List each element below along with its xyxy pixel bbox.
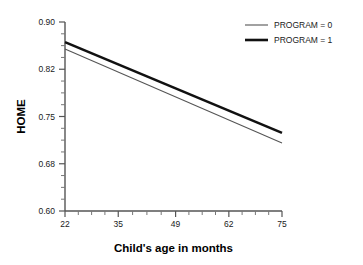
- y-tick-label-2: 0.75: [38, 112, 55, 122]
- x-axis-major-ticks: [65, 211, 282, 217]
- line-chart-canvas: 0.60 0.68 0.75 0.82 0.90 22 35 49 62 75 …: [0, 0, 363, 265]
- y-tick-label-3: 0.82: [38, 64, 55, 74]
- x-tick-label-0: 22: [60, 219, 70, 229]
- data-series-group: [65, 42, 282, 143]
- chart-legend: PROGRAM = 0 PROGRAM = 1: [245, 20, 333, 45]
- y-axis-tick-labels: 0.60 0.68 0.75 0.82 0.90: [38, 17, 55, 216]
- x-tick-label-4: 75: [277, 219, 287, 229]
- legend-label-program-0: PROGRAM = 0: [274, 20, 333, 30]
- chart-figure: 0.60 0.68 0.75 0.82 0.90 22 35 49 62 75 …: [0, 0, 363, 265]
- x-axis-tick-labels: 22 35 49 62 75: [60, 219, 287, 229]
- y-axis-title: HOME: [15, 99, 27, 134]
- axis-lines: [65, 22, 282, 211]
- series-line-program-0: [65, 49, 282, 143]
- x-tick-label-1: 35: [114, 219, 124, 229]
- y-axis-major-ticks: [59, 22, 65, 211]
- x-tick-label-3: 62: [224, 219, 234, 229]
- series-line-program-1: [65, 42, 282, 133]
- y-tick-label-0: 0.60: [38, 206, 55, 216]
- x-tick-label-2: 49: [171, 219, 181, 229]
- y-tick-label-4: 0.90: [38, 17, 55, 27]
- y-tick-label-1: 0.68: [38, 159, 55, 169]
- x-axis-title: Child's age in months: [114, 242, 233, 254]
- legend-label-program-1: PROGRAM = 1: [274, 35, 333, 45]
